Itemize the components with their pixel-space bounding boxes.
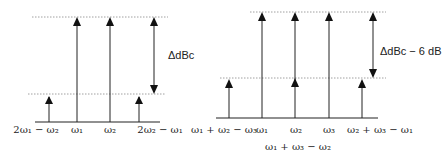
delta-dbc-minus-6db-label: ΔdBc − 6 dB [380, 45, 441, 57]
arrow-head-icon [150, 17, 158, 26]
arrow-head-down-icon [369, 69, 377, 78]
tone-label: ω₁ [71, 124, 83, 135]
tone-label: ω₂ + ω₃ − ω₁ [347, 124, 413, 135]
arrow-head-icon [258, 12, 266, 21]
arrow-head-icon [106, 17, 114, 26]
arrow-head-icon [325, 12, 333, 21]
tone-label: ω₃ [323, 124, 335, 135]
arrow-head-icon [225, 79, 233, 88]
arrow-head-down-icon [150, 85, 158, 94]
tone-label: 2ω₁ − ω₂ [13, 124, 58, 135]
delta-dbc-label: ΔdBc [168, 49, 194, 61]
overlap-tone-label: ω₁ + ω₃ − ω₂ [265, 141, 331, 152]
tone-label: ω₂ [104, 124, 116, 135]
left-spectrum [28, 17, 168, 122]
arrow-head-icon [369, 12, 377, 21]
arrow-head-icon [358, 79, 366, 88]
tone-label: ω₁ + ω₂ − ω₃ [191, 124, 257, 135]
tone-label: 2ω₂ − ω₁ [137, 124, 182, 135]
arrow-head-overlap-icon [291, 78, 299, 87]
arrow-head-icon [45, 96, 53, 104]
arrow-head-icon [135, 96, 143, 104]
arrow-head-icon [73, 17, 81, 26]
tone-label: ω₁ [256, 124, 268, 135]
right-spectrum [216, 12, 386, 118]
tone-label: ω₂ [290, 124, 302, 135]
intermod-diagrams [0, 0, 448, 162]
arrow-head-icon [291, 12, 299, 21]
